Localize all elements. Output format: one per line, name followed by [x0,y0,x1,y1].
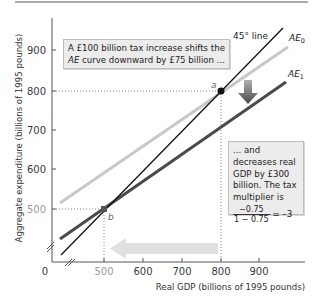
x-axis-title: Real GDP (billions of 1995 pounds) [156,282,305,292]
multiplier-formula: −0.75 1 − 0.75 = –3 [233,205,299,224]
svg-text:700: 700 [172,266,191,277]
svg-text:900: 900 [249,266,268,277]
svg-text:500: 500 [94,266,113,277]
point-a-marker [218,88,225,95]
svg-text:500: 500 [27,204,46,215]
x-tick-labels: 0 500 600 700 800 900 [42,266,269,277]
svg-text:600: 600 [133,266,152,277]
point-b-label: b [108,212,114,222]
svg-text:900: 900 [27,45,46,56]
line-45-label: 45° line [233,31,269,41]
multiplier-annotation-text: ... and decreases real GDP by £300 billi… [233,145,299,204]
y-tick-labels: 900 800 700 600 500 [27,45,46,215]
svg-text:800: 800 [27,86,46,97]
svg-text:600: 600 [27,164,46,175]
down-arrow-icon [238,80,258,104]
point-a-label: a [211,80,217,90]
y-axis-break [47,242,54,252]
svg-text:0: 0 [42,266,48,277]
multiplier-annotation: ... and decreases real GDP by £300 billi… [228,141,304,215]
point-b-marker [101,206,107,212]
svg-text:700: 700 [27,125,46,136]
ae0-label: AE0 [288,33,305,45]
ae1-label: AE1 [287,69,304,81]
tax-increase-annotation: A £100 billion tax increase shifts the A… [63,39,230,69]
svg-text:800: 800 [211,266,230,277]
left-arrow-icon [110,238,218,259]
multiplier-fraction: −0.75 1 − 0.75 [233,205,270,224]
y-axis-title: Aggregate expenditure (billions of 1995 … [14,34,24,243]
